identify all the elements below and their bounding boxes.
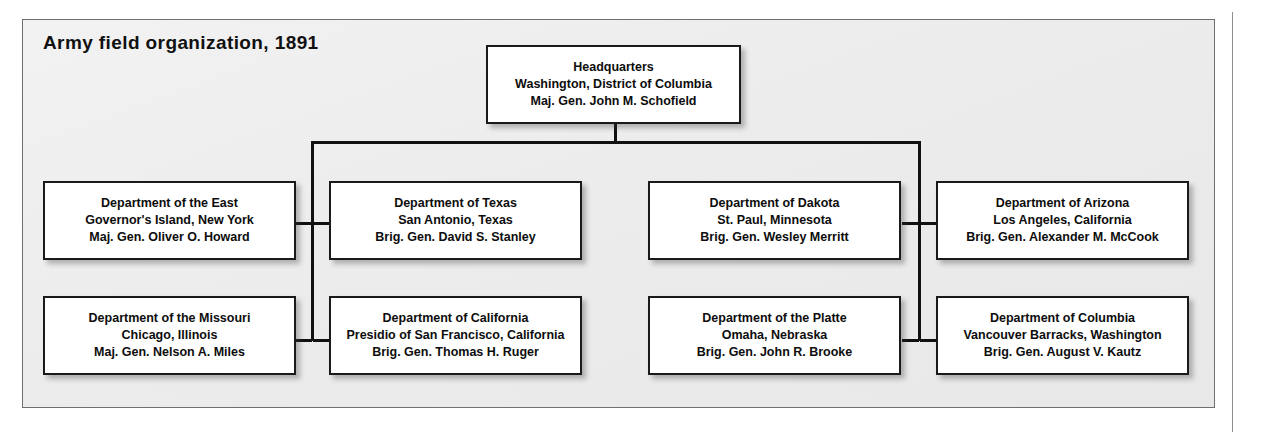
node-missouri-name: Department of the Missouri	[89, 310, 251, 327]
connector-stub-east	[295, 222, 312, 225]
node-dakota-name: Department of Dakota	[710, 195, 840, 212]
node-california-name: Department of California	[383, 310, 529, 327]
node-california-commander: Brig. Gen. Thomas H. Ruger	[372, 344, 539, 361]
node-texas-name: Department of Texas	[394, 195, 517, 212]
page-title: Army field organization, 1891	[43, 32, 319, 54]
node-east-commander: Maj. Gen. Oliver O. Howard	[89, 229, 249, 246]
node-columbia-name: Department of Columbia	[990, 310, 1135, 327]
connector-stub-platte	[902, 339, 919, 342]
connector-stub-california	[313, 339, 330, 342]
node-department-of-dakota[interactable]: Department of Dakota St. Paul, Minnesota…	[648, 181, 901, 260]
node-dakota-commander: Brig. Gen. Wesley Merritt	[700, 229, 848, 246]
node-headquarters[interactable]: Headquarters Washington, District of Col…	[486, 45, 741, 124]
node-platte-location: Omaha, Nebraska	[722, 327, 828, 344]
figure-page: Army field organization, 1891 Headquarte…	[0, 0, 1269, 434]
connector-left-trunk	[311, 141, 314, 341]
node-east-location: Governor's Island, New York	[85, 212, 254, 229]
node-headquarters-location: Washington, District of Columbia	[515, 76, 712, 93]
connector-right-trunk	[918, 141, 921, 341]
node-columbia-location: Vancouver Barracks, Washington	[963, 327, 1161, 344]
node-arizona-name: Department of Arizona	[996, 195, 1130, 212]
node-department-of-the-platte[interactable]: Department of the Platte Omaha, Nebraska…	[648, 296, 901, 375]
page-margin-rule	[1232, 12, 1233, 432]
node-platte-commander: Brig. Gen. John R. Brooke	[697, 344, 853, 361]
node-department-of-texas[interactable]: Department of Texas San Antonio, Texas B…	[329, 181, 582, 260]
node-missouri-commander: Maj. Gen. Nelson A. Miles	[94, 344, 245, 361]
node-columbia-commander: Brig. Gen. August V. Kautz	[984, 344, 1141, 361]
connector-stub-missouri	[295, 339, 312, 342]
node-department-of-california[interactable]: Department of California Presidio of San…	[329, 296, 582, 375]
node-arizona-location: Los Angeles, California	[993, 212, 1131, 229]
node-platte-name: Department of the Platte	[702, 310, 846, 327]
connector-stub-texas	[313, 222, 330, 225]
node-arizona-commander: Brig. Gen. Alexander M. McCook	[966, 229, 1159, 246]
node-department-of-the-east[interactable]: Department of the East Governor's Island…	[43, 181, 296, 260]
connector-stub-arizona	[920, 222, 937, 225]
node-dakota-location: St. Paul, Minnesota	[717, 212, 832, 229]
node-department-of-arizona[interactable]: Department of Arizona Los Angeles, Calif…	[936, 181, 1189, 260]
node-department-of-columbia[interactable]: Department of Columbia Vancouver Barrack…	[936, 296, 1189, 375]
node-east-name: Department of the East	[101, 195, 238, 212]
node-california-location: Presidio of San Francisco, California	[346, 327, 564, 344]
node-department-of-the-missouri[interactable]: Department of the Missouri Chicago, Illi…	[43, 296, 296, 375]
node-missouri-location: Chicago, Illinois	[122, 327, 218, 344]
connector-stub-dakota	[902, 222, 919, 225]
node-headquarters-name: Headquarters	[573, 59, 654, 76]
org-chart-panel: Army field organization, 1891 Headquarte…	[22, 19, 1215, 408]
connector-stub-columbia	[920, 339, 937, 342]
node-texas-commander: Brig. Gen. David S. Stanley	[375, 229, 535, 246]
node-texas-location: San Antonio, Texas	[398, 212, 513, 229]
node-headquarters-commander: Maj. Gen. John M. Schofield	[531, 93, 697, 110]
connector-main-bus	[311, 141, 921, 144]
